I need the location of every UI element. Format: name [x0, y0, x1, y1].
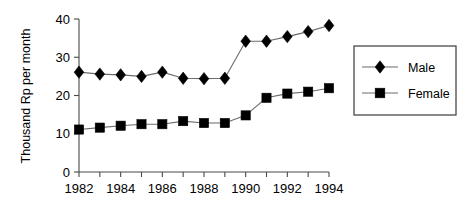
- data-point-square: [283, 89, 292, 98]
- y-axis-tick-label: 20: [56, 88, 70, 103]
- data-point-diamond: [199, 72, 209, 84]
- y-axis-tick-label: 30: [56, 50, 70, 65]
- series-line-male: [79, 26, 329, 79]
- legend-label-male: Male: [408, 61, 435, 75]
- data-point-square: [95, 123, 104, 132]
- y-axis-tick-label: 0: [63, 165, 70, 180]
- data-point-square: [199, 118, 208, 127]
- legend-label-female: Female: [408, 87, 450, 101]
- data-point-square: [304, 87, 313, 96]
- series-female: [74, 84, 333, 135]
- line-chart: Thousand Rp per month0102030401982198419…: [0, 0, 464, 219]
- data-point-diamond: [220, 72, 230, 84]
- x-axis-tick-label: 1990: [231, 181, 260, 196]
- x-axis-tick-label: 1986: [148, 181, 177, 196]
- y-axis-title: Thousand Rp per month: [19, 29, 33, 164]
- data-point-diamond: [241, 35, 251, 47]
- data-point-square: [137, 120, 146, 129]
- y-axis-tick-label: 40: [56, 12, 70, 27]
- data-point-diamond: [95, 68, 105, 80]
- data-point-diamond: [137, 70, 147, 82]
- data-point-square: [74, 125, 83, 134]
- series-male: [74, 19, 334, 85]
- data-point-diamond: [178, 72, 188, 84]
- x-axis-tick-label: 1988: [190, 181, 219, 196]
- data-point-square: [262, 93, 271, 102]
- data-point-square: [220, 118, 229, 127]
- data-point-diamond: [262, 35, 272, 47]
- data-point-square: [116, 121, 125, 130]
- x-axis-tick-label: 1984: [106, 181, 135, 196]
- legend-box: [354, 46, 456, 115]
- data-point-diamond: [324, 19, 334, 31]
- data-point-diamond: [157, 66, 167, 78]
- x-axis-tick-label: 1994: [315, 181, 344, 196]
- data-point-diamond: [116, 69, 126, 81]
- data-point-diamond: [74, 66, 84, 78]
- data-point-square: [158, 120, 167, 129]
- x-axis-tick-label: 1982: [65, 181, 94, 196]
- data-point-square: [241, 111, 250, 120]
- y-axis-tick-label: 10: [56, 126, 70, 141]
- chart-container: Thousand Rp per month0102030401982198419…: [0, 0, 464, 219]
- legend-marker-square: [375, 88, 385, 98]
- data-point-square: [179, 117, 188, 126]
- data-point-diamond: [282, 30, 292, 42]
- x-axis-tick-label: 1992: [273, 181, 302, 196]
- data-point-diamond: [303, 25, 313, 37]
- data-point-square: [324, 84, 333, 93]
